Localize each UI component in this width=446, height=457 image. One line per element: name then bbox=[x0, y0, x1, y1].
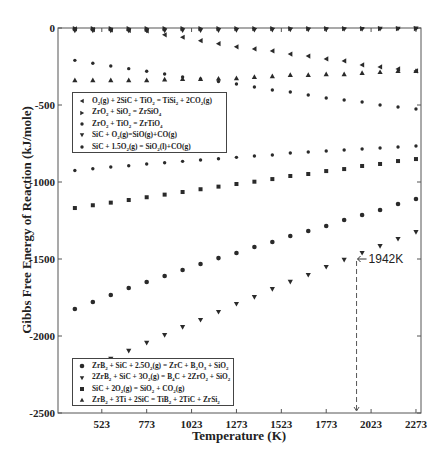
plot-area bbox=[58, 28, 421, 413]
circle-legend-icon bbox=[77, 361, 87, 371]
series-2 bbox=[73, 26, 419, 31]
x-tick-label: 2023 bbox=[360, 418, 383, 430]
dot-legend-icon bbox=[77, 142, 87, 152]
y-tick-label: -2500 bbox=[29, 407, 55, 419]
square-marker bbox=[414, 157, 418, 161]
triangle-left-marker bbox=[288, 51, 293, 56]
triangle-left-marker bbox=[198, 38, 203, 43]
legend-entry: SiC + O2(g)=SiO(g)+CO(g) bbox=[77, 129, 226, 140]
square-marker bbox=[80, 387, 84, 391]
square-marker bbox=[199, 187, 203, 191]
dot-marker bbox=[80, 122, 83, 125]
dot-marker bbox=[181, 160, 184, 163]
triangle-down-marker bbox=[324, 265, 329, 270]
x-tick-label: 1773 bbox=[315, 418, 338, 430]
legend-entry: ZrB2 + SiC + 2.5O2(g) = ZrC + B2O3 + SiO… bbox=[77, 360, 233, 371]
triangle-down-marker bbox=[80, 134, 84, 138]
triangle-up-marker bbox=[180, 76, 185, 81]
dot-marker bbox=[217, 157, 220, 160]
dot-marker bbox=[73, 59, 76, 62]
dot-marker bbox=[163, 72, 166, 75]
dot-marker bbox=[378, 103, 381, 106]
triangle-right-legend-icon bbox=[77, 108, 87, 118]
triangle-left-marker bbox=[80, 99, 84, 103]
triangle-down-marker bbox=[80, 376, 84, 380]
triangle-left-marker bbox=[234, 44, 239, 49]
dot-marker bbox=[145, 70, 148, 73]
legend-entry: SiC + 1.5O2(g) = SiO2(l)+CO(g) bbox=[77, 141, 226, 152]
triangle-down-marker bbox=[144, 341, 149, 346]
triangle-left-marker bbox=[360, 62, 365, 67]
legend-entry: ZrO2 + TiO2 = ZrTiO4 bbox=[77, 118, 226, 129]
legend-lower: ZrB2 + SiC + 2.5O2(g) = ZrC + B2O3 + SiO… bbox=[72, 358, 234, 406]
dot-marker bbox=[127, 164, 130, 167]
legend-label: SiC + O2(g)=SiO(g)+CO(g) bbox=[92, 130, 177, 139]
triangle-up-legend-icon bbox=[77, 395, 87, 405]
circle-marker bbox=[126, 286, 131, 291]
dot-marker bbox=[73, 169, 76, 172]
legend-entry: ZrO2 + SiO2 = ZrSiO4 bbox=[77, 106, 226, 117]
dot-marker bbox=[271, 88, 274, 91]
circle-marker bbox=[80, 364, 85, 369]
x-tick-label: 2273 bbox=[405, 418, 428, 430]
square-marker bbox=[181, 190, 185, 194]
triangle-up-marker bbox=[198, 76, 203, 81]
dot-marker bbox=[235, 156, 238, 159]
x-tick-label: 523 bbox=[94, 418, 111, 430]
dot-marker bbox=[109, 165, 112, 168]
triangle-up-marker bbox=[324, 71, 329, 76]
circle-marker bbox=[162, 274, 167, 279]
triangle-up-marker bbox=[108, 77, 113, 82]
triangle-down-marker bbox=[342, 258, 347, 263]
x-tick-label: 773 bbox=[138, 418, 155, 430]
circle-marker bbox=[360, 213, 365, 218]
legend-label: ZrO2 + SiO2 = ZrSiO4 bbox=[92, 107, 161, 116]
triangle-up-marker bbox=[144, 77, 149, 82]
square-marker bbox=[163, 193, 167, 197]
dot-marker bbox=[91, 62, 94, 65]
legend-entry: ZrB2 + 3Ti + 2SiC = TiB2 + 2TiC + ZrSi2 bbox=[77, 394, 233, 405]
triangle-up-marker bbox=[80, 398, 84, 402]
triangle-down-marker bbox=[162, 333, 167, 338]
triangle-down-marker bbox=[252, 295, 257, 300]
dot-marker bbox=[325, 149, 328, 152]
y-axis-title: Gibbs Free Energy of Reaction (kJ/mole) bbox=[19, 106, 34, 334]
dot-marker bbox=[414, 144, 417, 147]
circle-marker bbox=[216, 256, 221, 261]
legend-label: ZrO2 + TiO2 = ZrTiO4 bbox=[92, 119, 163, 128]
triangle-up-marker bbox=[126, 77, 131, 82]
square-marker bbox=[252, 180, 256, 184]
dot-marker bbox=[325, 96, 328, 99]
circle-marker bbox=[234, 251, 239, 256]
triangle-up-marker bbox=[72, 77, 77, 82]
dot-marker bbox=[396, 145, 399, 148]
triangle-left-legend-icon bbox=[77, 96, 87, 106]
triangle-down-marker bbox=[270, 287, 275, 292]
legend-label: O2(g) + 2SiC + TiO2 = TiSi2 + 2CO2(g) bbox=[92, 96, 212, 105]
triangle-down-marker bbox=[126, 349, 131, 354]
series-1 bbox=[72, 26, 418, 73]
triangle-up-marker bbox=[360, 70, 365, 75]
dot-marker bbox=[253, 85, 256, 88]
dot-marker bbox=[289, 151, 292, 154]
legend-label: ZrB2 + 3Ti + 2SiC = TiB2 + 2TiC + ZrSi2 bbox=[92, 395, 220, 404]
triangle-left-marker bbox=[252, 46, 257, 51]
square-marker bbox=[306, 172, 310, 176]
triangle-up-marker bbox=[377, 69, 382, 74]
triangle-down-marker bbox=[234, 302, 239, 307]
triangle-down-marker bbox=[306, 273, 311, 278]
square-marker bbox=[234, 182, 238, 186]
circle-marker bbox=[73, 307, 78, 312]
triangle-down-marker bbox=[395, 237, 400, 242]
series-8 bbox=[73, 157, 418, 210]
x-axis-title: Temperature (K) bbox=[192, 428, 286, 443]
triangle-left-marker bbox=[270, 48, 275, 53]
annotation-label: 1942K bbox=[369, 252, 404, 266]
square-marker bbox=[216, 185, 220, 189]
triangle-up-marker bbox=[342, 71, 347, 76]
legend-entry: O2(g) + 2SiC + TiO2 = TiSi2 + 2CO2(g) bbox=[77, 95, 226, 106]
series-9 bbox=[72, 68, 418, 82]
triangle-down-legend-icon bbox=[77, 130, 87, 140]
triangle-up-marker bbox=[216, 76, 221, 81]
y-tick-label: 0 bbox=[50, 22, 56, 34]
